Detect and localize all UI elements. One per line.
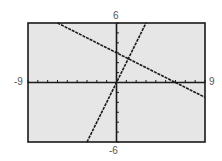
graph-window: [0, 0, 222, 161]
x-max-label: 9: [209, 77, 215, 87]
y-max-label: 6: [113, 11, 119, 21]
x-min-label: -9: [14, 77, 23, 87]
y-min-label: -6: [109, 146, 118, 156]
